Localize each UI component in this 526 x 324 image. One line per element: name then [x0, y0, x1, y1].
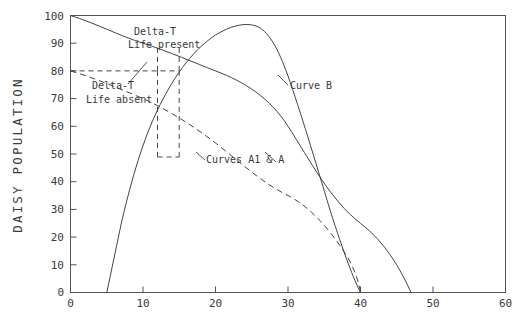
delta-t-present-line2: Life present — [128, 39, 200, 50]
y-tick-label: 50 — [51, 148, 64, 161]
annotation-delta-t-life-present: Delta-T Life present — [128, 26, 200, 50]
chart-svg: 0 10 20 30 40 50 60 70 80 90 100 0 10 20… — [0, 0, 526, 324]
x-axis-ticks — [71, 287, 506, 293]
x-tick-label: 20 — [209, 297, 222, 310]
annotation-curve-b: Curve B — [290, 80, 332, 91]
delta-t-absent-line1: Delta-T — [92, 80, 134, 91]
leader-curve-b — [278, 75, 288, 85]
x-tick-labels: 0 10 20 30 40 50 60 — [67, 297, 512, 310]
y-tick-label: 90 — [51, 37, 64, 50]
x-tick-label: 50 — [426, 297, 439, 310]
y-tick-label: 100 — [44, 10, 64, 23]
y-tick-label: 10 — [51, 259, 64, 272]
x-tick-label: 10 — [136, 297, 149, 310]
delta-t-present-line1: Delta-T — [134, 26, 176, 37]
y-tick-label: 60 — [51, 120, 64, 133]
x-tick-label: 0 — [67, 297, 74, 310]
y-tick-label: 80 — [51, 65, 64, 78]
leader-curves-a1-a-left — [196, 152, 205, 160]
annotation-leaders — [128, 62, 288, 162]
y-tick-label: 70 — [51, 92, 64, 105]
x-tick-label: 60 — [499, 297, 512, 310]
plot-frame — [71, 16, 506, 293]
annotation-curves-a1-a: Curves A1 & A — [206, 154, 284, 165]
delta-t-absent-line2: Life absent — [86, 94, 152, 105]
y-tick-label: 20 — [51, 231, 64, 244]
x-tick-label: 40 — [354, 297, 367, 310]
chart-figure: 0 10 20 30 40 50 60 70 80 90 100 0 10 20… — [0, 0, 526, 324]
y-tick-label: 0 — [57, 286, 64, 299]
y-axis-ticks — [71, 16, 77, 293]
annotation-delta-t-life-absent: Delta-T Life absent — [86, 80, 152, 105]
y-tick-labels: 0 10 20 30 40 50 60 70 80 90 100 — [44, 10, 64, 300]
y-tick-label: 40 — [51, 175, 64, 188]
y-tick-label: 30 — [51, 203, 64, 216]
y-axis-title: DAISY POPULATION — [10, 77, 25, 233]
x-tick-label: 30 — [281, 297, 294, 310]
